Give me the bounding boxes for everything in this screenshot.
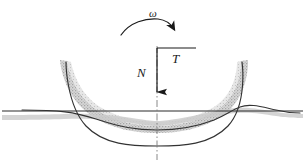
angular-velocity-arc-arrow: [121, 19, 174, 35]
normal-force-label: N: [137, 66, 146, 79]
angular-velocity-label: ω: [149, 8, 157, 19]
tangential-force-label: T: [172, 52, 179, 65]
diagram-vector-layer: [0, 0, 305, 162]
figure-canvas: ω N T: [0, 0, 305, 162]
